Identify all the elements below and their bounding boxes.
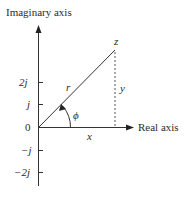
angle-label: ϕ: [73, 109, 79, 121]
real-axis-title: Real axis: [138, 121, 179, 133]
tick-label-2j: 2j: [19, 76, 28, 88]
magnitude-label: r: [66, 81, 71, 93]
imag-part-label: y: [119, 82, 125, 94]
imaginary-axis-title: Imaginary axis: [6, 6, 72, 18]
complex-plane-diagram: Imaginary axis Real axis 2j j 0 −j −2j z…: [0, 0, 185, 202]
real-part-label: x: [86, 130, 92, 142]
angle-arc: [63, 107, 71, 128]
tick-label-minus-2j: −2j: [14, 166, 30, 178]
imaginary-axis-arrow-icon: [36, 25, 42, 33]
tick-label-minus-j: −j: [21, 144, 31, 156]
tick-label-origin: 0: [25, 121, 31, 133]
real-axis-arrow-icon: [126, 125, 134, 131]
tick-label-j: j: [25, 98, 30, 110]
point-z-label: z: [113, 35, 119, 47]
